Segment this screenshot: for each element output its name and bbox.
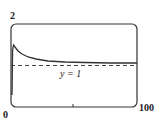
- x-min-label: 0: [3, 110, 8, 120]
- y-max-label: 2: [10, 11, 15, 21]
- asymptote-label: y = 1: [60, 69, 81, 79]
- x-max-label: 100: [139, 103, 154, 113]
- chart-plot-area: [0, 0, 157, 121]
